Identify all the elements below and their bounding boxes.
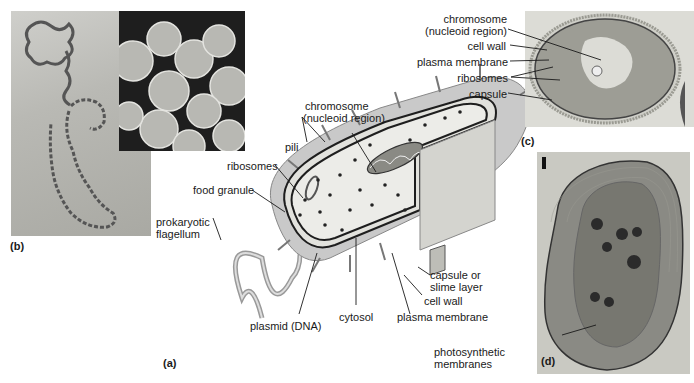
d-label-photosynthetic: photosynthetic	[434, 346, 505, 358]
panel-label-d: (d)	[541, 355, 555, 367]
micrograph-d-leader-line	[0, 0, 694, 383]
d-label-membranes: membranes	[434, 358, 492, 370]
